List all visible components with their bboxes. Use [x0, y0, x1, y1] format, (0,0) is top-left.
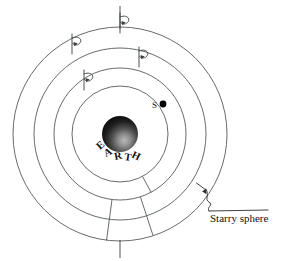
- star-dot: [160, 101, 167, 108]
- rotation-marker-ring3: [72, 34, 81, 54]
- rotation-marker-ring1: [84, 70, 93, 90]
- spoke-outer: [140, 197, 153, 236]
- spoke-inner: [143, 176, 152, 192]
- starry-sphere-callout: [197, 183, 269, 211]
- starry-sphere-label: Starry sphere: [210, 212, 268, 224]
- celestial-spheres-figure: E A R T H S Starry sphere: [0, 0, 284, 261]
- rotation-marker-outer: [120, 13, 129, 33]
- spoke-middle: [107, 200, 113, 241]
- diagram-canvas: E A R T H S Starry sphere: [0, 0, 284, 261]
- earth-label-letter-5: H: [130, 149, 142, 162]
- star-label: S: [152, 100, 157, 110]
